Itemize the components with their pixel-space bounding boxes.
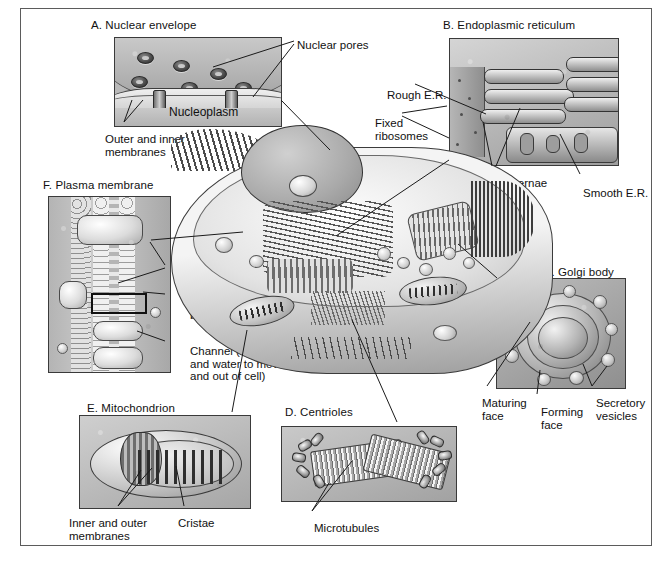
panel-f-texture xyxy=(49,197,170,372)
microvilli xyxy=(471,181,535,257)
vesicle xyxy=(463,257,475,269)
central-cell-illustration xyxy=(171,129,551,399)
panel-a-nucleoplasm-label: Nucleoplasm xyxy=(169,106,238,119)
panel-b-rough-er-label: Rough E.R. xyxy=(387,89,446,102)
panel-e-membranes-label: Inner and outer membranes xyxy=(69,517,147,542)
panel-c-forming-face-label: Forming face xyxy=(541,406,583,431)
panel-f-title: F. Plasma membrane xyxy=(43,179,153,191)
panel-a-nuclear-pores-label: Nuclear pores xyxy=(297,39,369,52)
panel-e-cristae-label: Cristae xyxy=(178,517,214,530)
nuclear-pore-icon xyxy=(210,68,227,80)
nuclear-pore-icon xyxy=(131,76,148,88)
vesicle xyxy=(249,255,264,268)
panel-d-title: D. Centrioles xyxy=(285,406,353,418)
panel-b-title: B. Endoplasmic reticulum xyxy=(443,19,575,31)
panel-e-mitochondrion xyxy=(79,415,251,509)
vesicle xyxy=(377,247,391,261)
panel-d-texture xyxy=(282,427,456,501)
vesicle xyxy=(419,263,433,276)
figure-frame: A. Nuclear envelope Nucleoplasm Nuclear … xyxy=(20,8,652,546)
cytoskeleton-filaments xyxy=(291,337,411,359)
panel-c-secretory-vesicles-label: Secretory vesicles xyxy=(596,397,645,422)
panel-c-maturing-face-label: Maturing face xyxy=(482,397,527,422)
panel-d-centrioles xyxy=(281,426,457,502)
vesicle xyxy=(215,237,233,253)
panel-d-microtubules-label: Microtubules xyxy=(314,522,379,535)
nucleolus xyxy=(289,175,317,197)
vesicle xyxy=(397,257,410,269)
panel-a-nuclear-envelope: Nucleoplasm xyxy=(114,37,282,127)
panel-f-plasma-membrane xyxy=(48,196,171,373)
vesicle xyxy=(443,247,456,260)
nuclear-pore-icon xyxy=(173,60,190,72)
panel-e-texture xyxy=(80,416,250,508)
panel-b-smooth-er-label: Smooth E.R. xyxy=(583,187,648,200)
panel-a-title: A. Nuclear envelope xyxy=(91,19,196,31)
nucleus xyxy=(241,125,363,213)
nuclear-pore-icon xyxy=(137,52,154,64)
panel-e-title: E. Mitochondrion xyxy=(87,402,175,414)
panel-c-title: C. Golgi body xyxy=(543,266,614,278)
vesicle xyxy=(433,325,457,341)
centrioles-cell xyxy=(311,291,385,325)
smooth-er-cell xyxy=(267,259,353,293)
